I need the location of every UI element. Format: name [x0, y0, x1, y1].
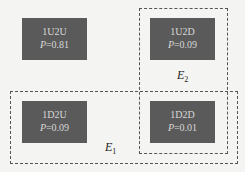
outcome-label: 1D2D — [150, 108, 215, 121]
event-e1-label: E1 — [105, 140, 116, 156]
outcome-probability: P=0.81 — [22, 38, 87, 51]
outcome-label: 1U2U — [22, 25, 87, 38]
event-e2-label: E2 — [177, 68, 188, 84]
outcome-label: 1D2U — [22, 108, 87, 121]
outcome-probability: P=0.09 — [22, 121, 87, 134]
outcome-1u2u: 1U2U P=0.81 — [22, 18, 87, 60]
outcome-probability: P=0.01 — [150, 121, 215, 134]
outcome-1d2d: 1D2D P=0.01 — [150, 101, 215, 143]
outcome-label: 1U2D — [150, 25, 215, 38]
outcome-1d2u: 1D2U P=0.09 — [22, 101, 87, 143]
outcome-1u2d: 1U2D P=0.09 — [150, 18, 215, 60]
outcome-probability: P=0.09 — [150, 38, 215, 51]
